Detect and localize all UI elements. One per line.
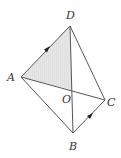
label-c: C [107, 96, 116, 109]
label-b: B [68, 140, 77, 153]
label-a: A [6, 71, 15, 84]
segment-dc [70, 26, 105, 100]
label-d: D [65, 9, 75, 22]
shaded-triangle-aod [21, 26, 72, 90]
geometry-diagram: D A O C B [0, 0, 121, 158]
label-o: O [62, 93, 71, 106]
